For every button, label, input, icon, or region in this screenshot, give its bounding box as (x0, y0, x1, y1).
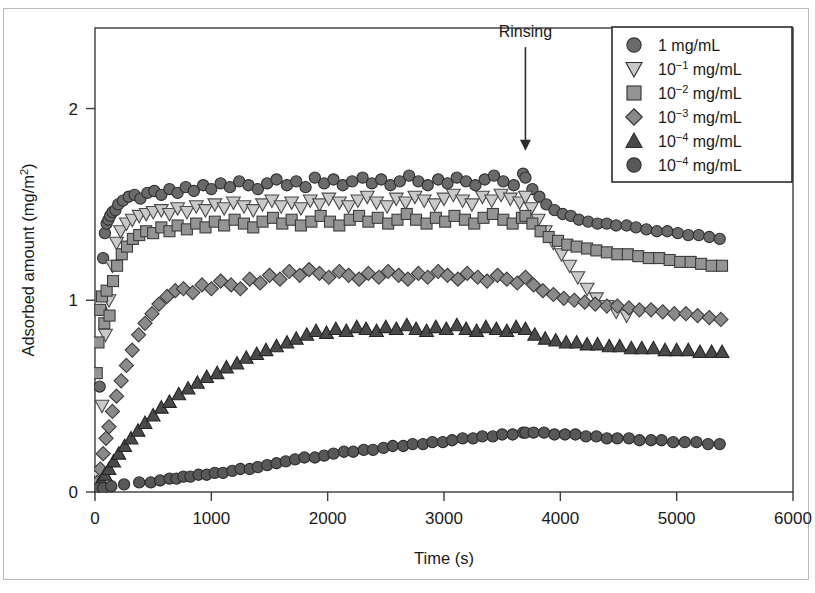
data-point (497, 429, 508, 440)
legend-label-base: 10 (658, 109, 676, 126)
legend-label-exponent: −2 (676, 83, 689, 95)
x-tick-label: 5000 (658, 509, 696, 528)
data-point (685, 256, 696, 267)
figure-container: 0100020003000400050006000012Time (s)Adso… (0, 0, 815, 593)
data-point (651, 226, 662, 237)
data-point (449, 210, 460, 221)
data-point (487, 208, 498, 219)
legend-label: 10−3 mg/mL (658, 107, 742, 126)
legend-label-base: 1 (658, 37, 667, 54)
legend-label-exponent: −4 (676, 155, 689, 167)
data-point (108, 276, 119, 287)
data-point (112, 260, 123, 271)
y-axis-title-tail: ) (19, 163, 37, 169)
y-axis-title-text: Adsorbed amount (mg/m2) (18, 163, 37, 356)
data-point (612, 433, 623, 444)
data-point (571, 241, 582, 252)
data-point (447, 435, 458, 446)
chart-svg: 0100020003000400050006000012Time (s)Adso… (0, 0, 815, 593)
data-point (118, 479, 129, 490)
data-point (538, 427, 549, 438)
data-point (696, 258, 707, 269)
x-tick-label: 4000 (541, 509, 579, 528)
x-tick-label: 2000 (309, 509, 347, 528)
data-point (407, 438, 418, 449)
legend-label: 10−1 mg/mL (658, 59, 742, 78)
data-point (457, 433, 468, 444)
data-point (104, 310, 115, 321)
data-point (630, 222, 641, 233)
legend-label-unit: mg/mL (688, 85, 741, 102)
data-point (559, 429, 570, 440)
data-point (645, 435, 656, 446)
data-point (348, 446, 359, 457)
data-point (367, 444, 378, 455)
data-point (295, 220, 306, 231)
data-point (299, 452, 310, 463)
data-point (94, 381, 105, 392)
data-point (706, 260, 717, 271)
data-point (591, 245, 602, 256)
data-point (106, 481, 117, 492)
data-point (591, 431, 602, 442)
data-point (654, 253, 665, 264)
data-point (714, 233, 725, 244)
data-point (601, 433, 612, 444)
data-point (334, 220, 345, 231)
legend-label-unit: mg/mL (688, 133, 741, 150)
data-point (643, 253, 654, 264)
data-point (662, 226, 673, 237)
data-point (411, 214, 422, 225)
legend-label-base: 10 (658, 157, 676, 174)
data-point (693, 229, 704, 240)
legend-label-base: 10 (658, 61, 676, 78)
legend-marker-circle-icon (627, 38, 641, 52)
data-point (679, 437, 690, 448)
legend-label-exponent: −3 (676, 107, 689, 119)
data-point (346, 176, 357, 187)
data-point (520, 172, 531, 183)
y-tick-label: 1 (69, 291, 78, 310)
data-point (300, 182, 311, 193)
data-point (477, 431, 488, 442)
data-point (91, 368, 102, 379)
data-point (714, 438, 725, 449)
data-point (622, 249, 633, 260)
data-point (683, 229, 694, 240)
legend-label: 1 mg/mL (658, 37, 720, 54)
legend-label-unit: mg/mL (688, 109, 741, 126)
data-point (704, 231, 715, 242)
data-point (427, 437, 438, 448)
data-point (580, 431, 591, 442)
data-point (717, 260, 728, 271)
data-point (601, 247, 612, 258)
data-point (507, 429, 518, 440)
data-point (633, 251, 644, 262)
data-point (328, 448, 339, 459)
data-point (219, 220, 230, 231)
data-point (498, 176, 509, 187)
data-point (134, 477, 145, 488)
legend-label-exponent: −1 (676, 59, 689, 71)
x-axis-title: Time (s) (414, 549, 474, 567)
data-point (528, 427, 539, 438)
data-point (387, 440, 398, 451)
data-point (422, 180, 433, 191)
data-point (668, 437, 679, 448)
legend-label-base: 10 (658, 133, 676, 150)
legend-label-exponent: −4 (676, 131, 689, 143)
legend-label: 10−4 mg/mL (658, 155, 742, 174)
data-point (271, 174, 282, 185)
data-point (702, 438, 713, 449)
data-point (623, 433, 634, 444)
legend-marker-square-icon (627, 86, 641, 100)
data-point (372, 212, 383, 223)
data-point (549, 429, 560, 440)
x-tick-label: 6000 (774, 509, 812, 528)
plot-area: 0100020003000400050006000012Time (s)Adso… (0, 0, 815, 593)
legend-label-base: 10 (658, 85, 676, 102)
data-point (691, 437, 702, 448)
data-point (611, 220, 622, 231)
data-point (257, 216, 268, 227)
legend-label-unit: mg/mL (667, 37, 720, 54)
